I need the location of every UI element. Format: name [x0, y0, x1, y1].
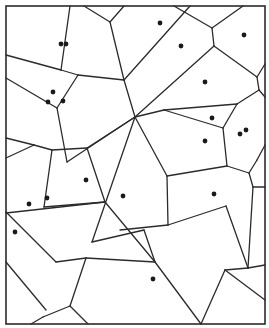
voronoi-edge [61, 70, 78, 75]
voronoi-edge [6, 138, 34, 145]
voronoi-edge [167, 176, 168, 225]
voronoi-diagram [0, 0, 269, 328]
site-point [61, 99, 66, 104]
voronoi-edge [6, 145, 34, 158]
site-point [179, 44, 184, 49]
voronoi-edge [57, 75, 78, 108]
voronoi-edge [135, 117, 167, 176]
voronoi-edge [56, 258, 86, 262]
voronoi-edge [61, 6, 70, 70]
voronoi-edge [167, 166, 227, 176]
voronoi-edge [86, 258, 155, 262]
voronoi-edge [223, 128, 227, 166]
voronoi-edge [257, 64, 265, 77]
voronoi-edge [105, 202, 155, 262]
voronoi-edge [31, 317, 43, 324]
voronoi-edge [78, 75, 124, 80]
voronoi-edge [120, 225, 168, 230]
voronoi-edge [124, 80, 135, 117]
voronoi-edge [227, 166, 249, 173]
voronoi-sites [13, 21, 249, 282]
site-point [121, 194, 126, 199]
voronoi-edge [144, 230, 155, 262]
site-point [238, 132, 243, 137]
voronoi-edge [225, 268, 248, 270]
site-point [27, 202, 32, 207]
voronoi-edge [225, 270, 265, 300]
voronoi-edge [84, 6, 110, 22]
voronoi-edge [248, 265, 265, 268]
voronoi-edges [6, 6, 265, 324]
site-point [84, 178, 89, 183]
voronoi-edge [44, 202, 105, 207]
voronoi-edge [34, 145, 52, 150]
site-point [151, 277, 156, 282]
voronoi-edge [6, 212, 56, 262]
voronoi-edge [214, 46, 257, 77]
voronoi-edge [110, 6, 124, 22]
voronoi-edge [43, 306, 70, 317]
voronoi-edge [6, 55, 61, 70]
voronoi-edge [87, 148, 105, 202]
voronoi-edge [87, 117, 135, 148]
voronoi-edge [124, 6, 190, 80]
site-point [59, 42, 64, 47]
site-point [244, 128, 249, 133]
voronoi-edge [164, 104, 237, 110]
site-point [46, 100, 51, 105]
voronoi-edge [155, 262, 201, 324]
voronoi-edge [212, 6, 243, 28]
voronoi-edge [57, 108, 67, 162]
diagram-frame [6, 6, 265, 324]
site-point [210, 116, 215, 121]
voronoi-edge [110, 22, 124, 80]
voronoi-edge [223, 104, 237, 128]
site-point [51, 90, 56, 95]
voronoi-edge [237, 90, 259, 104]
site-point [64, 42, 69, 47]
voronoi-edge [201, 270, 225, 324]
voronoi-edge [168, 206, 226, 225]
site-point [158, 21, 163, 26]
site-point [13, 230, 18, 235]
voronoi-edge [6, 262, 46, 310]
voronoi-edge [92, 117, 135, 242]
voronoi-edge [226, 206, 248, 268]
voronoi-edge [70, 258, 86, 306]
voronoi-edge [212, 28, 214, 46]
voronoi-edge [257, 77, 259, 90]
site-point [212, 192, 217, 197]
site-point [242, 33, 247, 38]
site-point [203, 139, 208, 144]
voronoi-edge [259, 90, 265, 97]
site-point [45, 196, 50, 201]
site-point [203, 80, 208, 85]
voronoi-edge [249, 173, 253, 187]
voronoi-edge [249, 160, 257, 173]
voronoi-edge [257, 145, 265, 160]
voronoi-edge [70, 306, 88, 324]
voronoi-edge [52, 148, 87, 150]
voronoi-edge [248, 187, 253, 268]
